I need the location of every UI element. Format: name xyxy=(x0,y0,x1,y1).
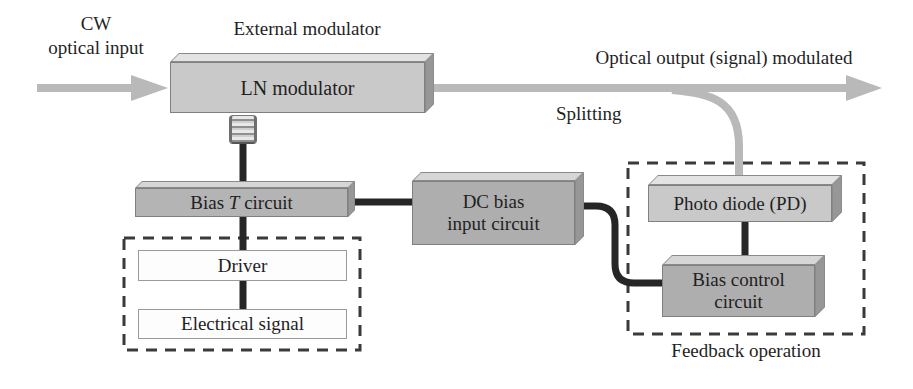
driver-box: Driver xyxy=(138,250,347,281)
dc-bias-line1: DC bias xyxy=(463,191,525,213)
photo-diode-top-bevel xyxy=(648,175,842,185)
bias-t-post: circuit xyxy=(239,192,292,213)
dc-bias-input-circuit-box: DC bias input circuit xyxy=(412,172,584,245)
bias-control-line1: Bias control xyxy=(692,269,784,291)
bias-control-line2: circuit xyxy=(714,291,763,313)
bias-t-circuit-box: Bias T circuit xyxy=(135,181,355,217)
dc-bias-input-circuit-label: DC bias input circuit xyxy=(412,181,575,245)
bias-control-circuit-label: Bias control circuit xyxy=(662,265,815,317)
bias-control-top-bevel xyxy=(662,255,825,265)
rf-connector-icon xyxy=(229,115,257,144)
photo-diode-label: Photo diode (PD) xyxy=(648,185,832,222)
optical-output-arrow-icon xyxy=(846,75,882,101)
dc-bias-top-bevel xyxy=(412,172,584,181)
bias-t-side-bevel xyxy=(348,181,355,217)
photo-diode-side-bevel xyxy=(832,175,842,222)
bias-t-italic: T xyxy=(229,192,240,213)
ln-modulator-top-bevel xyxy=(170,53,434,62)
bias-control-side-bevel xyxy=(815,255,825,317)
ln-modulator-label: LN modulator xyxy=(170,62,425,113)
diagram-canvas: CW optical input External modulator Opti… xyxy=(0,0,913,389)
ln-modulator-box: LN modulator xyxy=(170,53,434,113)
electrical-signal-box: Electrical signal xyxy=(138,309,347,339)
bias-t-circuit-label: Bias T circuit xyxy=(135,188,348,217)
ln-modulator-side-bevel xyxy=(425,53,434,113)
bias-t-pre: Bias xyxy=(190,192,229,213)
dc-bias-line2: input circuit xyxy=(447,213,539,235)
splitting-curve xyxy=(672,90,739,186)
bias-control-circuit-box: Bias control circuit xyxy=(662,255,825,317)
photo-diode-box: Photo diode (PD) xyxy=(648,175,842,222)
optical-input-arrow-icon xyxy=(131,75,168,101)
dc-bias-side-bevel xyxy=(575,172,584,245)
bias-t-top-bevel xyxy=(135,181,355,188)
